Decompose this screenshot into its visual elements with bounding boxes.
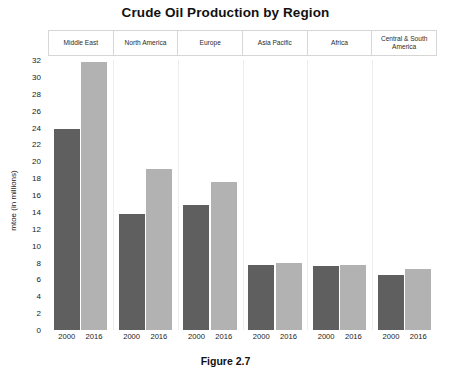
y-axis-tick-label: 12 xyxy=(32,224,41,233)
region-header-cell: Middle East xyxy=(49,31,114,55)
bar xyxy=(378,275,404,330)
x-axis-tick-label: 2000 xyxy=(188,332,205,341)
bar xyxy=(81,62,107,330)
y-axis-tick-label: 18 xyxy=(32,174,41,183)
y-axis-tick-label: 6 xyxy=(37,275,41,284)
y-axis-tick-label: 4 xyxy=(37,292,41,301)
x-axis-tick-label: 2016 xyxy=(280,332,297,341)
y-axis-title: mtoe (in millions) xyxy=(9,126,18,276)
region-header-cell: Asia Pacific xyxy=(243,31,308,55)
bar xyxy=(119,214,145,330)
bar xyxy=(248,265,274,330)
y-axis-tick-label: 10 xyxy=(32,241,41,250)
y-axis-tick-label: 24 xyxy=(32,123,41,132)
y-axis-tick-label: 28 xyxy=(32,89,41,98)
figure-container: Crude Oil Production by Region Middle Ea… xyxy=(0,0,451,379)
chart-title: Crude Oil Production by Region xyxy=(0,5,451,20)
x-axis-tick-label: 2016 xyxy=(86,332,103,341)
y-axis-tick-label: 20 xyxy=(32,157,41,166)
y-axis-tick-label: 2 xyxy=(37,309,41,318)
group-separator xyxy=(372,60,373,330)
bar xyxy=(146,169,172,330)
y-axis-tick-label: 30 xyxy=(32,72,41,81)
bar xyxy=(211,182,237,331)
x-axis-tick-label: 2000 xyxy=(123,332,140,341)
y-axis-tick-label: 0 xyxy=(37,326,41,335)
group-separator xyxy=(307,60,308,330)
x-axis-tick-label: 2000 xyxy=(383,332,400,341)
group-separator xyxy=(113,60,114,330)
x-axis-tick-label: 2000 xyxy=(253,332,270,341)
region-header-band: Middle EastNorth AmericaEuropeAsia Pacif… xyxy=(48,30,437,56)
group-separator xyxy=(243,60,244,330)
x-axis-tick-label: 2016 xyxy=(150,332,167,341)
x-axis-tick-label: 2000 xyxy=(318,332,335,341)
bar xyxy=(313,266,339,330)
x-axis-tick-label: 2016 xyxy=(345,332,362,341)
y-axis-tick-label: 8 xyxy=(37,258,41,267)
bar xyxy=(405,269,431,330)
plot-area xyxy=(48,60,437,330)
x-axis-tick-label: 2016 xyxy=(215,332,232,341)
region-header-cell: North America xyxy=(114,31,179,55)
x-axis: 2000201620002016200020162000201620002016… xyxy=(48,332,437,346)
y-axis: mtoe (in millions) 024681012141618202224… xyxy=(0,60,48,330)
bar xyxy=(54,129,80,330)
y-axis-tick-label: 26 xyxy=(32,106,41,115)
figure-caption: Figure 2.7 xyxy=(0,355,451,367)
y-axis-tick-label: 14 xyxy=(32,207,41,216)
y-axis-tick-label: 32 xyxy=(32,56,41,65)
x-axis-tick-label: 2000 xyxy=(58,332,75,341)
x-axis-tick-label: 2016 xyxy=(410,332,427,341)
group-separator xyxy=(178,60,179,330)
bar xyxy=(183,205,209,330)
y-axis-tick-label: 16 xyxy=(32,191,41,200)
y-axis-tick-label: 22 xyxy=(32,140,41,149)
bar xyxy=(340,265,366,330)
region-header-cell: Europe xyxy=(178,31,243,55)
region-header-cell: Africa xyxy=(308,31,373,55)
bar xyxy=(276,263,302,330)
region-header-cell: Central & South America xyxy=(372,31,436,55)
